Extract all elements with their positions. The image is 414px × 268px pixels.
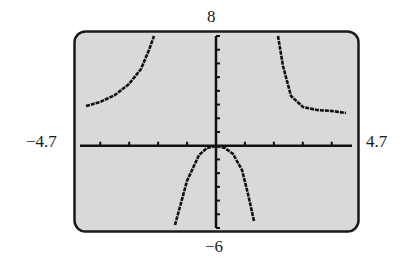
xmin-label: −4.7 — [26, 133, 57, 150]
ymax-label: 8 — [207, 8, 216, 25]
ymin-label: −6 — [205, 238, 223, 255]
xmax-label: 4.7 — [366, 133, 387, 150]
graph-screen — [0, 0, 414, 268]
